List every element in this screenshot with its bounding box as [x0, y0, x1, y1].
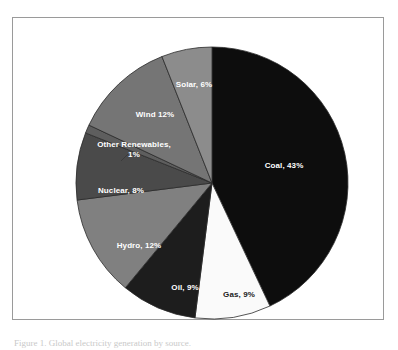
- pie-slice-group: [76, 47, 348, 319]
- chart-frame: Coal, 43%Gas, 9%Oil, 9%Hydro, 12%Nuclear…: [12, 17, 384, 320]
- figure-container: Coal, 43%Gas, 9%Oil, 9%Hydro, 12%Nuclear…: [0, 0, 398, 350]
- pie-chart: Coal, 43%Gas, 9%Oil, 9%Hydro, 12%Nuclear…: [13, 18, 385, 321]
- figure-caption: Figure 1. Global electricity generation …: [14, 338, 384, 349]
- pie-chart-svg: [13, 18, 385, 321]
